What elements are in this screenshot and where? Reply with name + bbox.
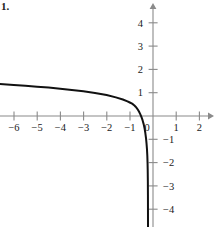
graph-figure: −6 −5 −4 −3 −2 −1 0 1 2 4 3 2 1 −1 −2 −3… (0, 0, 216, 227)
x-tick-label--6: −6 (8, 122, 19, 133)
x-tick-labels: −6 −5 −4 −3 −2 −1 0 1 2 (8, 122, 202, 133)
y-tick-label-2: 2 (138, 64, 143, 75)
logarithmic-curve (0, 84, 148, 227)
x-tick-label--1: −1 (124, 122, 135, 133)
x-tick-label--5: −5 (32, 122, 43, 133)
x-tick-label-2: 2 (197, 122, 202, 133)
x-tick-label-1: 1 (174, 122, 179, 133)
y-tick-label--3: −3 (163, 181, 174, 192)
y-axis-arrowhead (150, 3, 157, 9)
y-axis (150, 3, 157, 227)
coordinate-plane-svg: −6 −5 −4 −3 −2 −1 0 1 2 4 3 2 1 −1 −2 −3… (0, 0, 216, 227)
x-tick-label--3: −3 (78, 122, 89, 133)
y-tick-label-4: 4 (138, 18, 144, 29)
x-axis-arrowhead (208, 113, 214, 120)
y-tick-label--2: −2 (163, 157, 174, 168)
x-tick-label--2: −2 (101, 122, 112, 133)
y-tick-label--4: −4 (163, 204, 175, 215)
x-tick-label--4: −4 (55, 122, 67, 133)
y-tick-label-1: 1 (138, 87, 143, 98)
y-tick-label-3: 3 (138, 41, 143, 52)
y-tick-label--1: −1 (163, 134, 174, 145)
